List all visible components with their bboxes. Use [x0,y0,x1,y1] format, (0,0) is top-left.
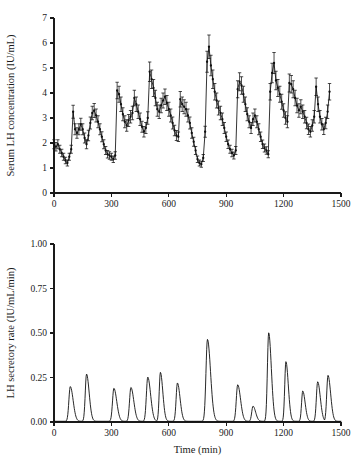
y-tick-label: 5 [42,63,47,73]
error-bars [52,35,331,167]
y-tick-label: 4 [42,88,47,98]
x-tick-label: 600 [162,428,177,438]
y-tick-label: 0.00 [30,417,47,427]
x-tick-label: 300 [104,199,119,209]
x-axis-title: Time (min) [174,444,222,456]
x-tick-label: 600 [162,199,177,209]
x-tick-label: 900 [219,199,234,209]
y-tick-label: 7 [42,13,47,23]
axis-frame [54,244,341,422]
x-tick-label: 0 [52,199,57,209]
y-tick-label: 1.00 [30,239,47,249]
y-tick-label: 3 [42,113,47,123]
x-tick-label: 0 [52,428,57,438]
y-axis-title: LH secretory rate (IU/mL/min) [5,267,17,398]
y-tick-label: 6 [42,38,47,48]
x-tick-label: 300 [104,428,119,438]
x-tick-label: 1200 [274,199,293,209]
y-tick-label: 1 [42,163,47,173]
y-tick-label: 0.75 [30,284,47,294]
y-tick-label: 0 [42,188,47,198]
serum-lh-concentration-panel: 01234567030060090012001500Serum LH conce… [0,0,356,234]
x-tick-label: 1500 [332,428,351,438]
y-tick-label: 0.25 [30,373,47,383]
lh-secretory-rate-panel: 0.000.250.500.751.00030060090012001500LH… [0,232,356,467]
y-axis-title: Serum LH concentration (IU/mL) [5,34,17,176]
y-tick-label: 2 [42,138,47,148]
concentration-series-line [54,47,330,165]
lh-secretory-rate-plot: 0.000.250.500.751.00030060090012001500LH… [0,232,356,467]
x-tick-label: 1200 [274,428,293,438]
secretory-rate-series-line [54,333,341,421]
y-tick-label: 0.50 [30,328,47,338]
lh-pulsatility-figure: 01234567030060090012001500Serum LH conce… [0,0,356,467]
serum-lh-concentration-plot: 01234567030060090012001500Serum LH conce… [0,0,356,234]
x-tick-label: 1500 [332,199,351,209]
x-tick-label: 900 [219,428,234,438]
